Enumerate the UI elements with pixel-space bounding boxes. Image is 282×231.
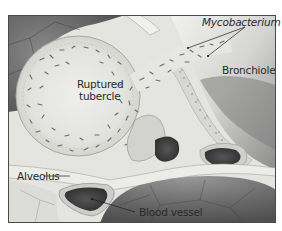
lung-tissue-drawing (0, 0, 282, 231)
label-bronchiole: Bronchiole (222, 65, 276, 76)
label-alveolus: Alveolus (17, 171, 60, 182)
label-ruptured-tubercle-line1: Ruptured (77, 79, 124, 90)
ruptured-tubercle (16, 36, 140, 156)
label-mycobacterium: Mycobacterium (202, 17, 280, 28)
label-ruptured-tubercle-line2: tubercle (79, 91, 121, 102)
tuberculosis-illustration: Mycobacterium Ruptured tubercle Bronchio… (0, 0, 282, 231)
label-blood-vessel: Blood vessel (139, 207, 203, 218)
